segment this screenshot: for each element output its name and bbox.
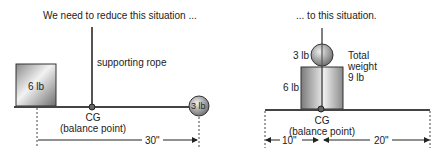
right-cg-label: CG (311, 115, 333, 126)
left-cg-pivot-icon (89, 104, 95, 110)
right-distance-10: 10" (282, 135, 297, 146)
right-total-line3: 9 lb (348, 72, 364, 83)
rope-label: supporting rope (97, 57, 167, 68)
right-cg-pivot-icon (318, 106, 324, 112)
right-box-label: 6 lb (283, 82, 299, 93)
right-cg-sub: (balance point) (287, 126, 357, 137)
right-total-line1: Total (348, 50, 369, 61)
right-total-line2: weight (348, 61, 377, 72)
left-ball-label: 3 lb (191, 101, 206, 112)
right-distance-20: 20" (374, 135, 389, 146)
right-ball-label: 3 lb (293, 50, 309, 61)
left-title: We need to reduce this situation ... (43, 10, 197, 21)
left-box-label: 6 lb (28, 81, 44, 92)
left-cg-sub: (balance point) (58, 123, 128, 134)
right-title: ... to this situation. (296, 10, 377, 21)
left-distance-30: 30" (145, 135, 160, 146)
left-cg-label: CG (82, 112, 104, 123)
